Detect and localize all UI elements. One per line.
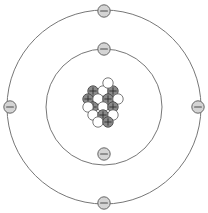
neutron-particle <box>103 78 113 88</box>
neutron-circle <box>93 117 103 127</box>
inner-electron-bottom[interactable] <box>98 148 110 160</box>
neutron-circle <box>103 78 113 88</box>
nucleus <box>83 78 123 127</box>
outer-electron-bottom[interactable] <box>98 197 110 209</box>
bohr-atom-diagram <box>0 0 208 213</box>
outer-electron-right[interactable] <box>192 101 204 113</box>
outer-electron-left[interactable] <box>4 101 16 113</box>
outer-electron-top[interactable] <box>98 5 110 17</box>
proton-particle <box>103 117 113 127</box>
neutron-particle <box>93 117 103 127</box>
atom-svg-canvas <box>0 0 208 213</box>
inner-electron-top[interactable] <box>98 43 110 55</box>
